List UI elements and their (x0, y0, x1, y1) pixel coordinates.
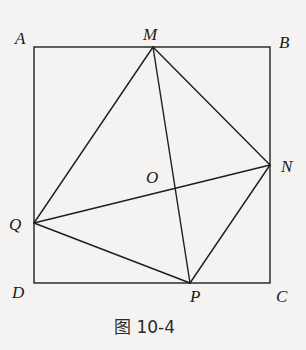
label-n: N (280, 157, 294, 176)
label-c: C (276, 287, 288, 306)
segment-mp (153, 47, 190, 283)
segment-qm (34, 47, 153, 223)
figure-caption: 图 10-4 (114, 317, 175, 337)
label-o: O (146, 168, 158, 187)
label-m: M (142, 25, 158, 44)
label-a: A (14, 29, 26, 48)
square-abcd (34, 47, 270, 283)
label-d: D (11, 283, 25, 302)
segment-pq (34, 223, 190, 283)
label-p: P (189, 287, 200, 306)
segment-mn (153, 47, 270, 165)
label-q: Q (9, 215, 21, 234)
geometry-figure: A M B N O Q D P C 图 10-4 (0, 0, 306, 350)
segment-np (190, 165, 270, 283)
label-b: B (279, 33, 290, 52)
